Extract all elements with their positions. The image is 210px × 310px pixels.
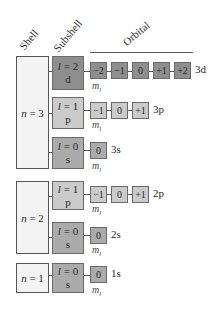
orbital-3s-1: 0 bbox=[90, 142, 107, 159]
orbital-name-2s: 2s bbox=[111, 228, 121, 240]
ml-label: ml bbox=[92, 203, 101, 217]
subshell-2p: l = 1 p bbox=[52, 181, 84, 210]
orbital-2s-1: 0 bbox=[90, 227, 107, 244]
shell-n2: n = 2 bbox=[16, 181, 49, 254]
orbital-2p-3: +1 bbox=[132, 186, 149, 203]
orbital-3d-5: +2 bbox=[174, 62, 191, 79]
shell-n1: n = 1 bbox=[16, 263, 49, 293]
orbital-header-rule bbox=[90, 52, 193, 53]
orbital-1s-1: 0 bbox=[90, 266, 107, 283]
shell-n3: n = 3 bbox=[16, 56, 49, 169]
ml-label: ml bbox=[92, 119, 101, 133]
ml-label: ml bbox=[92, 160, 101, 174]
orbital-3d-4: +1 bbox=[153, 62, 170, 79]
orbital-name-2p: 2p bbox=[153, 187, 164, 199]
orbital-name-3s: 3s bbox=[111, 143, 121, 155]
orbital-2p-1: −1 bbox=[90, 186, 107, 203]
subshell-header: Subshell bbox=[51, 17, 85, 54]
orbital-name-1s: 1s bbox=[111, 267, 121, 279]
ml-label: ml bbox=[92, 284, 101, 298]
orbital-3d-3: 0 bbox=[132, 62, 149, 79]
subshell-3d: l = 2 d bbox=[52, 56, 84, 90]
orbital-header: Orbital bbox=[120, 19, 152, 48]
subshell-3s: l = 0 s bbox=[52, 137, 84, 169]
orbital-3p-3: +1 bbox=[132, 102, 149, 119]
ml-label: ml bbox=[92, 80, 101, 94]
orbital-3p-1: −1 bbox=[90, 102, 107, 119]
subshell-1s: l = 0 s bbox=[52, 263, 84, 293]
orbital-2p-2: 0 bbox=[111, 186, 128, 203]
ml-label: ml bbox=[92, 244, 101, 258]
shell-header: Shell bbox=[17, 27, 41, 52]
orbital-3p-2: 0 bbox=[111, 102, 128, 119]
subshell-2s: l = 0 s bbox=[52, 222, 84, 254]
orbital-3d-1: −2 bbox=[90, 62, 107, 79]
orbital-3d-2: −1 bbox=[111, 62, 128, 79]
subshell-3p: l = 1 p bbox=[52, 97, 84, 129]
orbital-name-3p: 3p bbox=[153, 103, 164, 115]
orbital-name-3d: 3d bbox=[195, 63, 206, 75]
